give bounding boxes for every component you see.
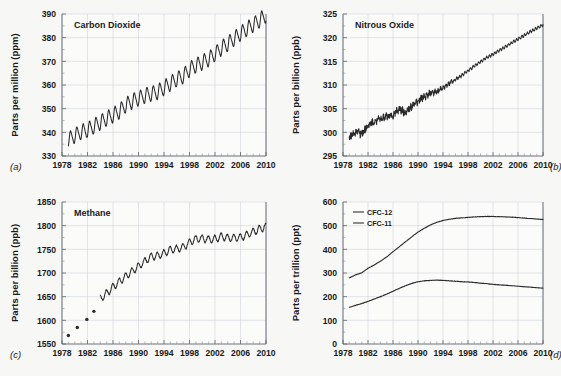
panel-title: Nitrous Oxide	[355, 20, 414, 30]
data-point	[85, 318, 88, 321]
x-tick-label: 1986	[383, 160, 402, 170]
y-tick-label: 500	[323, 221, 338, 231]
x-tick-label: 2002	[483, 160, 502, 170]
panel-c-plot: 1550160016501700175018001850197819821986…	[0, 188, 282, 376]
x-tick-label: 2002	[483, 348, 502, 358]
y-tick-label: 1850	[37, 197, 56, 207]
panel-a-carbon-dioxide: 3303403503603703803901978198219861990199…	[0, 0, 282, 188]
x-tick-label: 1998	[180, 160, 199, 170]
x-tick-label: 1990	[408, 348, 427, 358]
x-tick-label: 2006	[231, 348, 250, 358]
y-axis-title: Parts per billion (ppb)	[290, 36, 301, 134]
x-tick-label: 2006	[508, 348, 527, 358]
x-tick-label: 1998	[458, 348, 477, 358]
data-point	[76, 326, 79, 329]
x-tick-label: 1990	[408, 160, 427, 170]
panel-b-plot: 2953003053103153203251978198219861990199…	[281, 0, 561, 188]
y-axis-title: Parts per trillion (ppt)	[290, 225, 301, 322]
y-tick-label: 325	[323, 9, 338, 19]
x-tick-label: 1998	[458, 160, 477, 170]
panel-letter: (a)	[10, 161, 22, 172]
legend-label: CFC-12	[367, 208, 392, 217]
y-tick-label: 305	[323, 104, 338, 114]
panel-letter: (c)	[10, 349, 21, 360]
y-tick-label: 200	[323, 292, 338, 302]
panel-c-methane: 1550160016501700175018001850197819821986…	[0, 188, 282, 376]
panel-letter: (b)	[550, 161, 561, 172]
y-tick-label: 300	[323, 268, 338, 278]
x-tick-label: 1990	[129, 160, 148, 170]
panel-d-cfcs: 0100200300400500600197819821986199019941…	[281, 188, 561, 376]
y-axis-title: Parts per million (ppm)	[9, 33, 20, 136]
x-tick-label: 1986	[383, 348, 402, 358]
y-tick-label: 380	[42, 33, 57, 43]
y-tick-label: 390	[42, 9, 57, 19]
y-tick-label: 1750	[37, 245, 56, 255]
panel-a-plot: 3303403503603703803901978198219861990199…	[0, 0, 282, 188]
y-tick-label: 360	[42, 80, 57, 90]
x-tick-label: 2006	[508, 160, 527, 170]
x-tick-label: 2002	[205, 348, 224, 358]
x-tick-label: 1982	[78, 348, 97, 358]
y-tick-label: 600	[323, 197, 338, 207]
x-tick-label: 1998	[180, 348, 199, 358]
x-tick-label: 1978	[52, 348, 71, 358]
x-tick-label: 1982	[78, 160, 97, 170]
y-tick-label: 400	[323, 245, 338, 255]
x-tick-label: 1990	[129, 348, 148, 358]
y-tick-label: 370	[42, 57, 57, 67]
figure-greenhouse-gas-trends: 3303403503603703803901978198219861990199…	[0, 0, 561, 376]
x-tick-label: 1982	[358, 348, 377, 358]
panel-d-plot: 0100200300400500600197819821986199019941…	[281, 188, 561, 376]
x-tick-label: 1994	[433, 348, 452, 358]
y-tick-label: 1700	[37, 268, 56, 278]
y-tick-label: 300	[323, 128, 338, 138]
x-tick-label: 2010	[256, 160, 275, 170]
y-axis-title: Parts per billion (ppb)	[9, 224, 20, 322]
x-tick-label: 2006	[231, 160, 250, 170]
y-tick-label: 310	[323, 80, 338, 90]
y-tick-label: 340	[42, 128, 57, 138]
y-tick-label: 320	[323, 33, 338, 43]
y-tick-label: 1650	[37, 292, 56, 302]
x-tick-label: 1978	[52, 160, 71, 170]
x-tick-label: 1986	[103, 348, 122, 358]
x-tick-label: 1982	[358, 160, 377, 170]
x-tick-label: 1978	[333, 160, 352, 170]
y-tick-label: 350	[42, 104, 57, 114]
y-tick-label: 100	[323, 316, 338, 326]
y-tick-label: 315	[323, 57, 338, 67]
panel-letter: (d)	[550, 349, 561, 360]
y-tick-label: 1600	[37, 316, 56, 326]
panel-b-nitrous-oxide: 2953003053103153203251978198219861990199…	[281, 0, 561, 188]
x-tick-label: 2002	[205, 160, 224, 170]
y-tick-label: 1800	[37, 221, 56, 231]
data-point	[92, 310, 95, 313]
x-tick-label: 2010	[256, 348, 275, 358]
panel-title: Carbon Dioxide	[74, 20, 141, 30]
x-tick-label: 1994	[154, 160, 173, 170]
x-tick-label: 1986	[103, 160, 122, 170]
x-tick-label: 1994	[433, 160, 452, 170]
panel-title: Methane	[74, 208, 111, 218]
legend-label: CFC-11	[367, 219, 392, 228]
x-tick-label: 1978	[333, 348, 352, 358]
x-tick-label: 1994	[154, 348, 173, 358]
data-point	[67, 334, 70, 337]
